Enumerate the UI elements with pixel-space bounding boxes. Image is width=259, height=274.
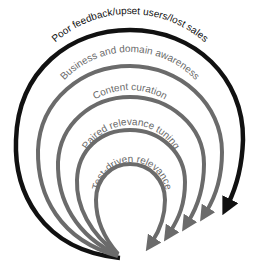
- arc-business-domain: Business and domain awareness: [38, 43, 222, 256]
- arc-label-business-domain: Business and domain awareness: [58, 43, 202, 82]
- arc-label-poor-feedback: Poor feedback/upset users/lost sales: [49, 5, 210, 44]
- arc-arrow-4: [77, 130, 185, 254]
- feedback-loops-diagram: Poor feedback/upset users/lost sales Bus…: [0, 0, 259, 274]
- svg-text:Business and domain awareness: Business and domain awareness: [58, 43, 202, 82]
- arc-arrow-5: [96, 164, 165, 254]
- svg-text:Poor feedback/upset users/lost: Poor feedback/upset users/lost sales: [49, 5, 210, 44]
